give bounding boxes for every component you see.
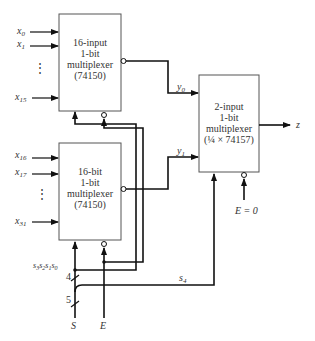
mux-b-line4: (74150) bbox=[74, 199, 106, 211]
label-x15: x15 bbox=[14, 91, 27, 104]
mux-c-line1: 2-input bbox=[215, 101, 244, 112]
ellipsis-b: ⋮ bbox=[36, 187, 48, 201]
wire-y1: y1 bbox=[121, 145, 198, 192]
label-x17: x17 bbox=[14, 166, 27, 179]
label-e: E bbox=[99, 320, 106, 331]
label-x31: x31 bbox=[14, 215, 26, 228]
ellipsis-a: ⋮ bbox=[34, 61, 46, 75]
bus-width-4: 4 bbox=[66, 271, 71, 282]
multiplexer-circuit-diagram: 16-input 1-bit multiplexer (74150) x0 x1… bbox=[0, 0, 315, 341]
label-z: z bbox=[295, 119, 300, 130]
mux-a-line1: 16-input bbox=[73, 37, 107, 48]
label-y1: y1 bbox=[176, 145, 185, 158]
label-s4: s4 bbox=[179, 272, 187, 285]
mux-a-line4: (74150) bbox=[74, 70, 106, 82]
label-y0: y0 bbox=[176, 81, 185, 94]
wire-y0: y0 bbox=[121, 59, 198, 95]
mux-b-line1: 16-bit bbox=[78, 166, 102, 177]
mux-a-inputs: x0 x1 ⋮ x15 bbox=[14, 25, 58, 104]
mux-c-line4: (¼ × 74157) bbox=[204, 134, 254, 146]
mux-c-2-input: 2-input 1-bit multiplexer (¼ × 74157) bbox=[199, 75, 259, 172]
mux-b-16-bit: 16-bit 1-bit multiplexer (74150) bbox=[59, 143, 121, 240]
label-x1: x1 bbox=[16, 38, 25, 51]
mux-b-line3: multiplexer bbox=[67, 188, 114, 199]
mux-b-line2: 1-bit bbox=[81, 177, 100, 188]
mux-b-inputs: x16 x17 ⋮ x31 bbox=[14, 149, 58, 228]
mux-c-enable: E = 0 bbox=[234, 173, 258, 217]
mux-c-line2: 1-bit bbox=[220, 112, 239, 123]
label-x16: x16 bbox=[14, 149, 27, 162]
label-s3s2s1s0: s3s2s1s0 bbox=[33, 261, 58, 271]
mux-c-line3: multiplexer bbox=[206, 123, 253, 134]
mux-a-line2: 1-bit bbox=[81, 48, 100, 59]
wire-z: z bbox=[259, 119, 300, 130]
bus-width-5: 5 bbox=[66, 294, 71, 305]
mux-a-16-input: 16-input 1-bit multiplexer (74150) bbox=[59, 14, 121, 111]
label-x0: x0 bbox=[16, 25, 25, 38]
mux-a-line3: multiplexer bbox=[67, 59, 114, 70]
label-s: S bbox=[71, 320, 76, 331]
label-e-equals-0: E = 0 bbox=[234, 205, 258, 216]
